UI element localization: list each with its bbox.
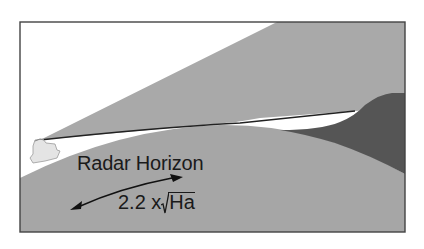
- radar-horizon-formula: 2.2 xHa: [118, 191, 195, 214]
- radar-horizon-label: Radar Horizon: [77, 152, 203, 175]
- radical-sign-icon: [161, 192, 169, 214]
- square-root-symbol: Ha: [161, 191, 195, 214]
- radar-horizon-diagram: [0, 0, 424, 249]
- formula-radicand: Ha: [168, 192, 195, 212]
- formula-coefficient: 2.2 x: [118, 191, 161, 213]
